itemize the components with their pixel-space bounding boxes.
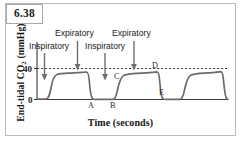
point-label-b: B (110, 101, 116, 110)
figure-number-text: 6.38 (14, 8, 35, 20)
annotation-inspiratory-2: Inspiratory (85, 42, 125, 51)
inspiratory-arrow-2 (102, 53, 108, 81)
figure-number-badge: 6.38 (6, 4, 43, 24)
point-label-c: C (114, 72, 120, 81)
figure-container: 6.38 (0, 0, 241, 143)
y-axis-title-units: (mmHg) (15, 23, 26, 61)
expiratory-arrow-1 (75, 41, 81, 71)
annotation-inspiratory-1: Inspiratory (29, 42, 69, 51)
point-label-a: A (88, 101, 94, 110)
expiratory-arrow-2 (131, 41, 137, 71)
inspiratory-arrow-1 (42, 53, 48, 81)
annotation-expiratory-2: Expiratory (112, 29, 151, 38)
y-axis-title-subscript: 2 (20, 61, 28, 65)
annotation-expiratory-1: Expiratory (55, 29, 94, 38)
y-tick-label-0: 0 (28, 95, 33, 105)
point-label-d: D (152, 61, 158, 70)
y-axis-title-main: End-tidal CO (15, 65, 26, 122)
y-axis-title: End-tidal CO2 (mmHg) (15, 17, 26, 129)
point-label-e: E (159, 88, 164, 97)
x-axis-title: Time (seconds) (0, 117, 241, 128)
waveform-path (37, 72, 228, 100)
